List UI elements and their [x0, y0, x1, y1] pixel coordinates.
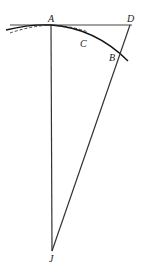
label-j: J — [49, 253, 54, 264]
label-c: C — [80, 38, 87, 49]
radius-aj — [51, 25, 52, 251]
geometry-diagram: A D C B J — [0, 0, 141, 274]
label-a: A — [47, 13, 55, 24]
line-dj — [52, 25, 130, 251]
label-d: D — [126, 13, 135, 24]
label-b: B — [109, 52, 115, 63]
